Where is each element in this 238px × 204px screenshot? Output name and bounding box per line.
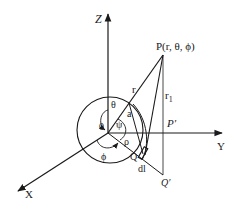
point-q-label: Q <box>130 151 138 162</box>
psi-label: ψ <box>116 119 123 130</box>
y-axis-label: Y <box>217 140 225 152</box>
dl-label: dl <box>138 163 146 174</box>
x-axis-label: X <box>25 188 33 200</box>
point-p-prime-label: P′ <box>166 117 177 129</box>
r-label: r <box>132 83 136 95</box>
diagram-canvas: Z Y X P(r, θ, ϕ) P′ 0 Q Q′ r r1 θ a ψ ρ … <box>0 0 238 204</box>
r1-line <box>145 55 163 155</box>
r1-label: r1 <box>165 89 173 104</box>
phi-arc <box>97 140 118 148</box>
point-p-label: P(r, θ, ϕ) <box>156 40 195 53</box>
x-axis <box>18 133 108 191</box>
rho-label: ρ <box>124 136 129 147</box>
origin-label: 0 <box>99 121 104 132</box>
point-q-prime-label: Q′ <box>161 177 171 188</box>
z-axis-label: Z <box>95 12 102 26</box>
theta-label: θ <box>111 99 116 110</box>
phi-label: ϕ <box>101 151 106 162</box>
a-label: a <box>127 108 132 119</box>
